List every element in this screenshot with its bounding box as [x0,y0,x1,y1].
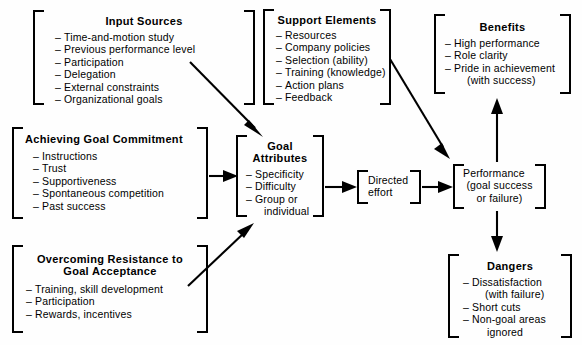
node-input-sources: Input Sources –Time-and-motion study –Pr… [33,10,255,105]
list-item: –Delegation [55,68,246,80]
node-overcoming-resistance: Overcoming Resistance to Goal Acceptance… [12,245,208,333]
list-item: –Trust [33,162,199,174]
node-directed-effort: Directed effort [357,170,421,204]
list-item: –Selection (ability) [276,54,382,66]
list-item: –Training (knowledge) [276,66,382,78]
node-label-line1: Performance [462,167,537,179]
node-benefits: Benefits –High performance –Role clarity… [434,14,571,94]
list-item: –Short cuts [463,301,563,313]
list-item: –Previous performance level [55,43,246,55]
node-title: Dangers [457,260,563,272]
node-title-line2: Goal Acceptance [21,265,199,277]
list-item: –Dissatisfaction [463,276,563,288]
list-item: –Specificity [246,168,315,180]
node-support-elements: Support Elements –Resources –Company pol… [263,9,391,105]
node-label-line2: (goal success [462,179,537,191]
node-achieving-goal-commitment: Achieving Goal Commitment –Instructions … [12,127,208,219]
list-item: –External constraints [55,81,246,93]
node-label-line1: Directed [366,174,412,186]
node-title-line2: Attributes [245,152,315,164]
node-dangers: Dangers –Dissatisfaction (with failure) … [448,254,572,338]
node-item-list: –Instructions –Trust –Supportiveness –Sp… [21,150,199,212]
list-item: –Instructions [33,150,199,162]
node-label-line2: effort [366,186,412,198]
node-label-line3: or failure) [462,192,537,204]
list-item: –High performance [445,37,562,49]
list-item: –Participation [55,56,246,68]
list-item: –Non-goal areas [463,313,563,325]
list-item: –Action plans [276,79,382,91]
list-item: –Participation [26,295,199,307]
list-item: –Time-and-motion study [55,31,246,43]
node-title: Input Sources [42,15,246,27]
node-item-list: –Time-and-motion study –Previous perform… [42,31,246,105]
node-title-line1: Goal [245,140,315,152]
list-item: –Supportiveness [33,175,199,187]
list-item-continuation: individual [246,205,315,217]
node-title: Support Elements [272,14,382,26]
list-item-continuation: (with success) [445,74,562,86]
list-item-continuation: ignored [463,326,563,338]
node-item-list: –Specificity –Difficulty –Group or indiv… [245,168,315,218]
node-title: Benefits [443,21,562,33]
list-item: –Spontaneous competition [33,187,199,199]
node-title-line1: Overcoming Resistance to [21,253,199,265]
list-item: –Organizational goals [55,93,246,105]
node-item-list: –Dissatisfaction (with failure) –Short c… [457,276,563,338]
list-item: –Rewards, incentives [26,308,199,320]
node-performance: Performance (goal success or failure) [453,164,546,209]
node-item-list: –Resources –Company policies –Selection … [272,29,382,103]
node-item-list: –High performance –Role clarity –Pride i… [443,37,562,87]
list-item: –Training, skill development [26,283,199,295]
list-item: –Feedback [276,91,382,103]
list-item: –Group or [246,193,315,205]
list-item: –Difficulty [246,180,315,192]
list-item: –Past success [33,200,199,212]
list-item: –Pride in achievement [445,62,562,74]
goal-setting-diagram: Input Sources –Time-and-motion study –Pr… [0,0,582,345]
list-item: –Resources [276,29,382,41]
node-title: Achieving Goal Commitment [21,133,199,145]
node-goal-attributes: Goal Attributes –Specificity –Difficulty… [236,135,324,217]
list-item: –Company policies [276,41,382,53]
list-item-continuation: (with failure) [463,288,563,300]
node-item-list: –Training, skill development –Participat… [21,283,199,320]
list-item: –Role clarity [445,49,562,61]
